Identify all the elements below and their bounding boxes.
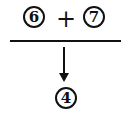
result-4-label: 4 (61, 91, 71, 106)
horizontal-divider-line (10, 40, 121, 42)
operand-6-label: 6 (29, 10, 39, 25)
plus-operator: + (56, 7, 72, 31)
operand-7-label: 7 (89, 10, 99, 25)
operand-7-circled: 7 (83, 6, 105, 28)
result-4-circled: 4 (55, 87, 77, 109)
down-arrow-icon (56, 47, 72, 83)
operand-6-circled: 6 (23, 6, 45, 28)
